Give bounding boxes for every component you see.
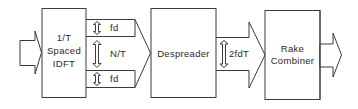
middle-label: N/T	[110, 48, 126, 59]
2fdt-double-arrow-icon	[220, 41, 228, 68]
bottom-fd-double-arrow-icon	[94, 73, 101, 86]
idft-label-line2: Spaced	[47, 45, 81, 56]
nt-double-arrow-icon	[93, 41, 101, 68]
input-arrow	[20, 31, 42, 74]
block-diagram: 1/T Spaced IDFT fd N/T fd Despreader 2fd…	[0, 0, 358, 109]
rake-label-line2: Combiner	[271, 55, 315, 66]
output-arrow	[320, 33, 342, 77]
despreader-output-label: 2fdT	[229, 48, 249, 59]
idft-label-line3: IDFT	[53, 58, 75, 69]
idft-label-line1: 1/T	[57, 32, 72, 43]
bottom-band-label: fd	[110, 73, 119, 84]
top-band-label: fd	[110, 22, 119, 33]
despreader-label: Despreader	[157, 48, 210, 59]
top-fd-double-arrow-icon	[94, 22, 101, 35]
rake-label-line1: Rake	[281, 43, 304, 54]
